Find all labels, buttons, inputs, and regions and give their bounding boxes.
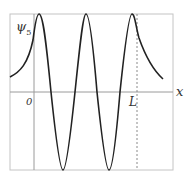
psi-subscript: 5 — [26, 28, 31, 37]
x-axis-label: x — [176, 84, 183, 99]
psi-symbol: ψ — [16, 19, 26, 34]
y-axis-label: ψ5 — [16, 19, 31, 37]
well-edge-label: L — [129, 95, 137, 109]
origin-label: 0 — [26, 96, 32, 107]
